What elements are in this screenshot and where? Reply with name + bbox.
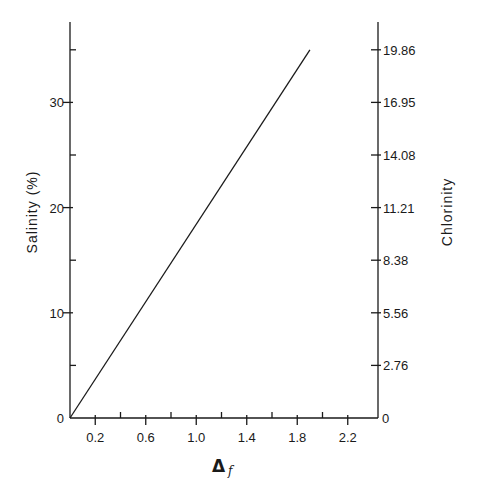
x-tick-label: 0.2	[86, 430, 104, 445]
y-tick-label: 0	[57, 411, 64, 426]
y-tick-label: 10	[50, 306, 64, 321]
x-tick-label: 1.0	[187, 430, 205, 445]
x-axis-title-main: Δ	[212, 456, 226, 476]
chart: 0.20.61.01.41.82.2010203002.765.568.3811…	[0, 0, 480, 499]
ticks	[63, 50, 381, 425]
y-axis-title: Salinity (%)	[24, 171, 40, 254]
y2-tick-label: 0	[382, 411, 389, 426]
y2-tick-label: 2.76	[383, 358, 408, 373]
y2-tick-label: 14.08	[383, 148, 416, 163]
x-axis-title-subscript: f	[227, 464, 235, 478]
y2-axis-title: Chlorinity	[439, 178, 455, 246]
x-tick-label: 0.6	[137, 430, 155, 445]
axes	[70, 22, 378, 418]
x-tick-label: 2.2	[339, 430, 357, 445]
x-tick-label: 1.4	[238, 430, 256, 445]
y-tick-label: 30	[50, 95, 64, 110]
y2-tick-label: 11.21	[383, 201, 415, 216]
salinity-line	[70, 50, 310, 418]
x-tick-label: 1.8	[288, 430, 306, 445]
y2-tick-label: 5.56	[383, 306, 408, 321]
x-axis-title: Δ f	[212, 456, 235, 478]
y2-tick-label: 16.95	[383, 95, 416, 110]
y2-tick-label: 19.86	[383, 43, 416, 58]
y2-tick-label: 8.38	[383, 253, 408, 268]
tick-labels: 0.20.61.01.41.82.2010203002.765.568.3811…	[50, 43, 416, 445]
y-tick-label: 20	[50, 201, 64, 216]
